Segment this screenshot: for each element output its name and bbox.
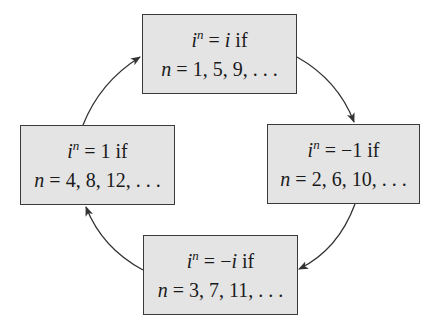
node-top-n-values: n = 1, 5, 9, . . . [161,56,277,82]
exponent-n: n [313,137,320,152]
exponent-n: n [73,138,80,153]
arrow-top-to-right [297,57,354,122]
node-bottom-n-values: n = 3, 7, 11, . . . [158,277,284,303]
node-right-n-values: n = 2, 6, 10, . . . [280,166,406,192]
variable-n: n [158,279,168,301]
node-top: in = i if n = 1, 5, 9, . . . [142,14,297,94]
variable-n: n [280,168,290,190]
node-right-condition: in = −1 if [308,137,380,166]
equals-sign: = [320,139,341,161]
equals-sign: = [204,29,225,51]
variable-n: n [34,169,44,191]
n-values: 1, 5, 9, . . . [193,58,278,80]
node-left-condition: in = 1 if [67,138,128,167]
arrow-bottom-to-left [86,207,143,270]
equals-sign: = [168,279,189,301]
arrow-right-to-bottom [299,204,355,269]
if-label: if [111,140,128,162]
node-bottom-condition: in = −i if [187,248,254,277]
power-value: −1 [341,139,362,161]
n-values: 2, 6, 10, . . . [312,168,407,190]
n-values: 3, 7, 11, . . . [189,279,283,301]
equals-sign: = [44,169,65,191]
variable-n: n [161,58,171,80]
equals-sign: = [79,140,100,162]
equals-sign: = [290,168,311,190]
if-label: if [237,250,254,272]
power-value: 1 [101,140,111,162]
equals-sign: = [199,250,220,272]
n-values: 4, 8, 12, . . . [66,169,161,191]
node-right: in = −1 if n = 2, 6, 10, . . . [267,124,420,204]
powers-of-i-cycle-diagram: in = i if n = 1, 5, 9, . . . in = −1 if … [0,0,426,324]
base-i: i [67,140,73,162]
node-bottom: in = −i if n = 3, 7, 11, . . . [143,235,298,315]
node-top-condition: in = i if [191,27,247,56]
if-label: if [230,29,247,51]
minus-sign: − [220,250,231,272]
if-label: if [362,139,379,161]
node-left-n-values: n = 4, 8, 12, . . . [34,167,160,193]
node-left: in = 1 if n = 4, 8, 12, . . . [20,125,175,205]
exponent-n: n [197,27,204,42]
exponent-n: n [192,248,199,263]
arrow-left-to-top [83,57,140,125]
equals-sign: = [171,58,192,80]
